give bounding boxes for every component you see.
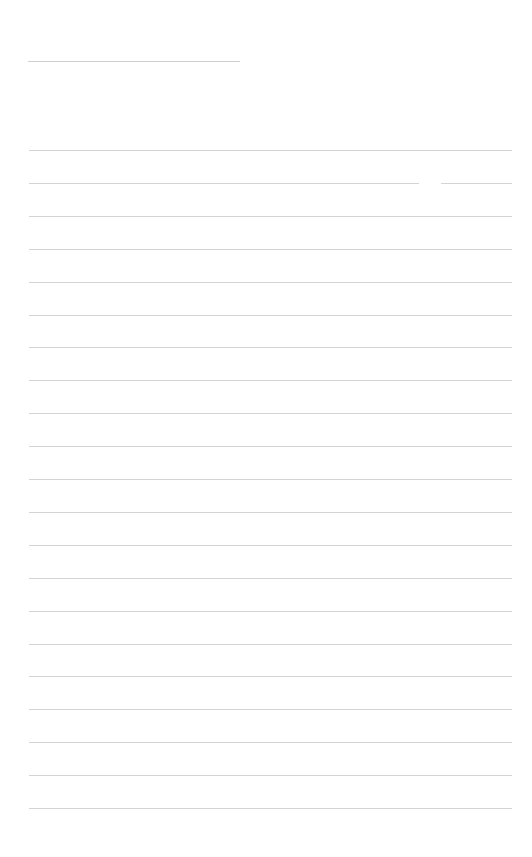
ruled-line [29, 512, 512, 513]
ruled-line [29, 183, 512, 184]
ruled-line [29, 676, 512, 677]
ruled-line [29, 808, 512, 809]
ruled-line [29, 644, 512, 645]
ruled-line [29, 150, 512, 151]
ruled-line [29, 479, 512, 480]
ruled-line [29, 315, 512, 316]
ruled-line [29, 216, 512, 217]
ruled-line [29, 380, 512, 381]
ruled-line [29, 446, 512, 447]
ruled-line [29, 249, 512, 250]
ruled-line [29, 282, 512, 283]
ruled-line [29, 413, 512, 414]
ruled-line [29, 775, 512, 776]
ruled-line [29, 742, 512, 743]
ruled-lines [0, 0, 532, 857]
ruled-line [29, 611, 512, 612]
ruled-line [29, 347, 512, 348]
ruled-line [29, 709, 512, 710]
ruled-line [29, 545, 512, 546]
ruled-line [29, 578, 512, 579]
